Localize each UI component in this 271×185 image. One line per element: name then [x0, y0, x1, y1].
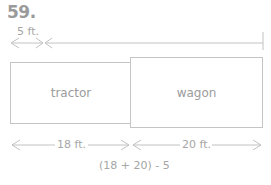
wagon-label: wagon — [177, 86, 217, 100]
tractor-box: tractor — [10, 62, 132, 124]
top-dimension-label: 5 ft. — [17, 25, 39, 38]
tractor-label: tractor — [51, 86, 92, 100]
wagon-length-label: 20 ft. — [182, 138, 211, 151]
wagon-box: wagon — [130, 57, 263, 128]
expression: (18 + 20) - 5 — [99, 159, 170, 172]
tractor-length-label: 18 ft. — [57, 138, 86, 151]
